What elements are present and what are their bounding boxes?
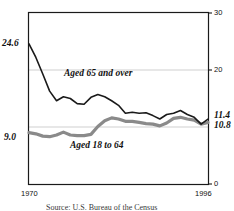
x-tick-label-1970: 1970 bbox=[21, 189, 38, 198]
series-label-aged-65-and-over: Aged 65 and over bbox=[64, 68, 132, 78]
series-line-aged-65-and-over bbox=[29, 44, 208, 124]
y-tick-label-30: 30 bbox=[214, 8, 222, 17]
value-label-11-4: 11.4 bbox=[214, 110, 230, 120]
value-label-24-6: 24.6 bbox=[2, 38, 19, 48]
source-note: Source: U.S. Bureau of the Census bbox=[46, 203, 196, 211]
series-group bbox=[29, 44, 208, 137]
y-tick-label-20: 20 bbox=[214, 65, 222, 74]
value-label-9-0: 9.0 bbox=[4, 132, 16, 142]
value-label-10-8: 10.8 bbox=[214, 120, 231, 130]
chart-plot-area bbox=[0, 0, 234, 211]
y-tick-label-0: 0 bbox=[214, 179, 218, 188]
chart-figure: 30 20 0 1970 1996 24.6 9.0 11.4 10.8 Age… bbox=[0, 0, 234, 211]
x-tick-label-1996: 1996 bbox=[195, 189, 212, 198]
series-label-aged-18-to-64: Aged 18 to 64 bbox=[70, 140, 124, 150]
